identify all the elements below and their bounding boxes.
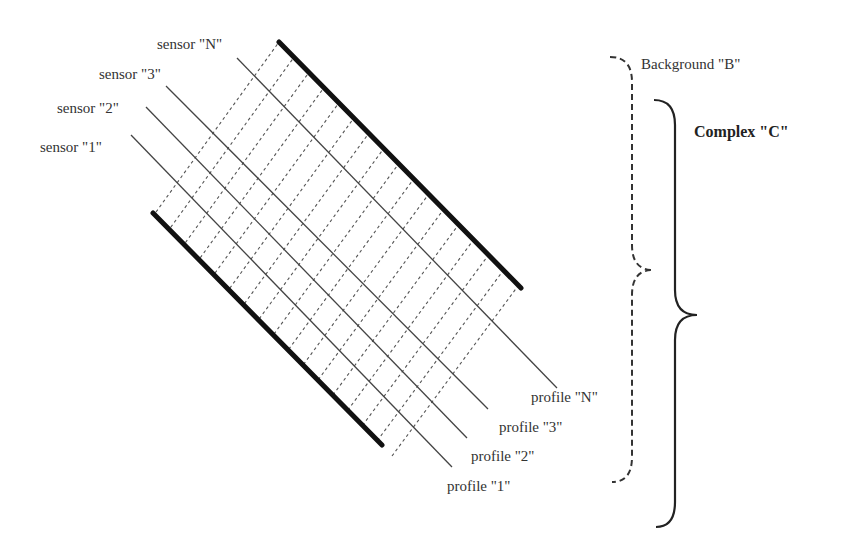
sensor-label-2: sensor "2": [57, 101, 119, 116]
profile-label-3: profile "3": [499, 420, 562, 435]
dashed-line: [318, 210, 443, 380]
sensor-profile-diagram: sensor "1" sensor "2" sensor "3" sensor …: [0, 0, 844, 550]
diagram-canvas: [0, 0, 844, 550]
bottom-boundary-line: [153, 213, 382, 445]
dashed-line: [333, 225, 458, 395]
dashed-line: [377, 271, 503, 441]
complex-label: Complex "C": [694, 124, 789, 140]
sensor-line-2: [146, 107, 467, 438]
dashed-line: [186, 73, 309, 243]
profile-label-2: profile "2": [471, 449, 534, 464]
sensor-line-1: [131, 135, 452, 467]
sensor-label-3: sensor "3": [99, 67, 161, 82]
dashed-line: [156, 42, 279, 212]
top-boundary-line: [279, 42, 521, 288]
dashed-line: [230, 118, 354, 288]
dashed-line: [245, 134, 369, 304]
profile-label-1: profile "1": [447, 479, 510, 494]
sensor-label-n: sensor "N": [157, 37, 222, 52]
dashed-line: [171, 57, 294, 227]
dashed-line: [348, 240, 473, 410]
background-label: Background "B": [641, 57, 740, 72]
sensor-line-4: [237, 58, 557, 388]
profile-label-n: profile "N": [531, 390, 598, 405]
complex-brace: [654, 100, 697, 527]
dashed-line: [259, 149, 383, 319]
dashed-line: [289, 179, 414, 349]
dashed-line: [274, 164, 399, 334]
dashed-line: [304, 195, 429, 365]
dashed-line: [215, 103, 339, 273]
sensor-label-1: sensor "1": [40, 140, 102, 155]
background-brace: [610, 57, 653, 482]
dashed-line: [200, 88, 324, 258]
sensor-line-3: [166, 86, 488, 409]
dashed-line: [363, 256, 489, 426]
